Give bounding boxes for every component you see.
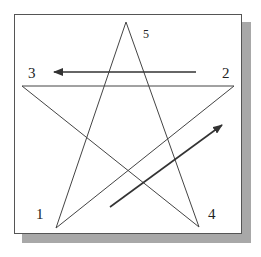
vertex-label-1: 1 (36, 207, 44, 222)
star-outline (22, 22, 234, 228)
vertex-label-2: 2 (222, 66, 230, 81)
vertex-label-5: 5 (143, 28, 149, 40)
arrow-1-to-2 (110, 125, 222, 207)
vertex-label-4: 4 (208, 207, 216, 222)
vertex-label-3: 3 (28, 66, 36, 81)
